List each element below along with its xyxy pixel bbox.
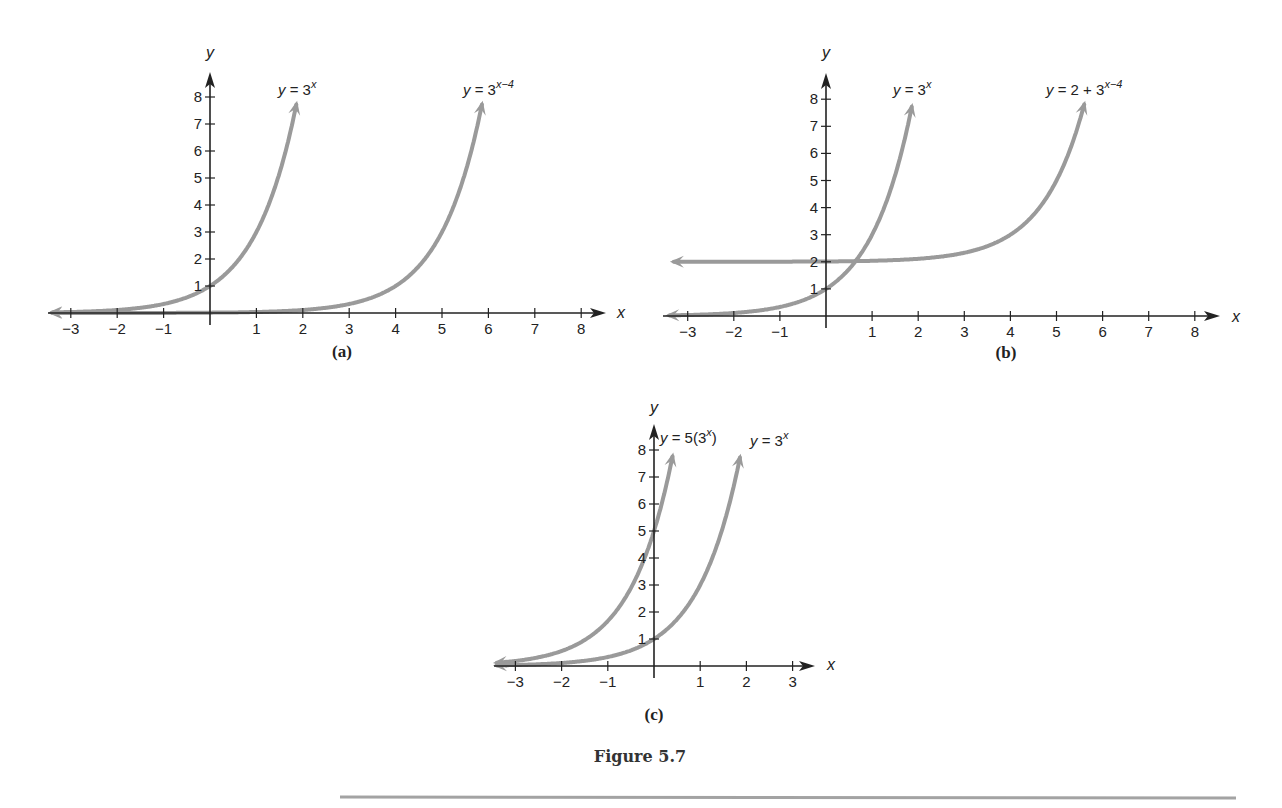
x-tick-label: 2 — [914, 323, 922, 340]
y-tick-label: 6 — [638, 495, 646, 512]
y-tick-label: 3 — [810, 226, 818, 243]
y-tick-label: 5 — [638, 522, 646, 539]
x-tick-label: 3 — [960, 323, 968, 340]
y-tick-label: 5 — [810, 172, 818, 189]
curve-2 — [497, 458, 740, 666]
figure-caption: Figure 5.7 — [594, 747, 686, 766]
curve-label-1: y = 5(3x) — [659, 426, 717, 446]
chart-panel-b: y = 3xy = 2 + 3x−4xy−3−2−112345678123456… — [663, 44, 1241, 362]
y-axis-label: y — [821, 44, 831, 61]
y-tick-label: 1 — [810, 280, 818, 297]
chart-panel-a: y = 3xy = 3x−4xy−3−2−11234567812345678(a… — [48, 44, 626, 361]
x-tick-label: −2 — [725, 323, 742, 340]
x-tick-label: 6 — [1098, 323, 1106, 340]
x-tick-label: 3 — [345, 320, 353, 337]
y-axis-label: y — [649, 399, 659, 416]
y-tick-label: 3 — [638, 576, 646, 593]
x-tick-label: −3 — [507, 673, 524, 690]
y-tick-label: 1 — [194, 277, 202, 294]
x-tick-label: 2 — [742, 673, 750, 690]
panel-label: (b) — [996, 343, 1017, 362]
x-tick-label: 1 — [252, 320, 260, 337]
x-tick-label: 4 — [1006, 323, 1014, 340]
y-tick-label: 4 — [810, 199, 818, 216]
y-tick-label: 3 — [194, 223, 202, 240]
curve-1 — [52, 105, 296, 313]
panel-label: (c) — [645, 705, 664, 724]
x-tick-label: 4 — [391, 320, 399, 337]
divider-line — [340, 797, 1236, 798]
y-tick-label: 8 — [194, 88, 202, 105]
y-tick-label: 7 — [810, 117, 818, 134]
y-tick-label: 6 — [810, 144, 818, 161]
x-tick-label: 5 — [1052, 323, 1060, 340]
y-tick-label: 1 — [638, 630, 646, 647]
x-tick-label: −1 — [599, 673, 616, 690]
curve-1 — [669, 107, 911, 316]
y-tick-label: 2 — [194, 250, 202, 267]
y-axis-label: y — [205, 44, 215, 61]
x-tick-label: 8 — [577, 320, 585, 337]
x-tick-label: 5 — [438, 320, 446, 337]
y-tick-label: 4 — [194, 196, 202, 213]
curve-label-2: y = 3x — [749, 429, 789, 449]
x-tick-label: 7 — [1145, 323, 1153, 340]
y-tick-label: 7 — [194, 115, 202, 132]
curve-label-2: y = 2 + 3x−4 — [1045, 78, 1122, 98]
x-tick-label: −2 — [109, 320, 126, 337]
curve-2 — [674, 105, 1084, 262]
x-tick-label: 3 — [788, 673, 796, 690]
x-tick-label: 1 — [868, 323, 876, 340]
x-tick-label: −2 — [553, 673, 570, 690]
curve-label-2: y = 3x−4 — [462, 78, 514, 98]
x-axis-label: x — [616, 304, 626, 321]
x-tick-label: 8 — [1191, 323, 1199, 340]
x-tick-label: −3 — [62, 320, 79, 337]
y-tick-label: 6 — [194, 142, 202, 159]
y-tick-label: 7 — [638, 468, 646, 485]
x-tick-label: 7 — [531, 320, 539, 337]
x-tick-label: −1 — [771, 323, 788, 340]
y-tick-label: 2 — [638, 603, 646, 620]
panel-label: (a) — [332, 342, 352, 361]
y-tick-label: 5 — [194, 169, 202, 186]
x-tick-label: −1 — [155, 320, 172, 337]
y-tick-label: 8 — [810, 90, 818, 107]
x-tick-label: 1 — [696, 673, 704, 690]
chart-panel-c: y = 5(3x)y = 3xxy−3−2−112312345678(c) — [493, 399, 836, 724]
y-tick-label: 8 — [638, 441, 646, 458]
x-tick-label: 2 — [299, 320, 307, 337]
x-axis-label: x — [826, 656, 836, 673]
x-axis-label: x — [1231, 308, 1241, 325]
figure-canvas: y = 3xy = 3x−4xy−3−2−11234567812345678(a… — [0, 0, 1282, 808]
x-tick-label: −3 — [679, 323, 696, 340]
curve-label-1: y = 3x — [277, 78, 317, 98]
y-tick-label: 2 — [810, 253, 818, 270]
y-tick-label: 4 — [638, 549, 646, 566]
x-tick-label: 6 — [484, 320, 492, 337]
curve-1 — [497, 457, 673, 663]
curve-label-1: y = 3x — [892, 78, 932, 98]
